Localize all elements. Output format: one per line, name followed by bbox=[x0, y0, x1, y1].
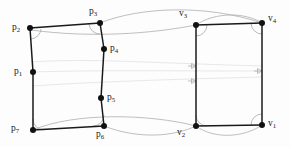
vertex-label-v2: v2 bbox=[177, 128, 185, 138]
guide-line-lower bbox=[32, 77, 262, 86]
left-polygon-edges bbox=[30, 23, 104, 130]
edge-v1-v2 bbox=[196, 125, 262, 126]
right-vertex-dots bbox=[193, 20, 265, 129]
vertex-label-v1: v1 bbox=[268, 119, 276, 129]
vertex-dot-p5[interactable] bbox=[98, 95, 104, 101]
edge-v3-v4 bbox=[196, 23, 262, 25]
vertex-dot-v2[interactable] bbox=[193, 123, 199, 129]
correspondence-curves-group bbox=[31, 10, 262, 135]
figure-root: p2 p3 p4 p5 p6 p7 p1 v3 v4 v1 v2 bbox=[0, 0, 290, 147]
vertex-dot-v3[interactable] bbox=[193, 22, 199, 28]
left-corner-arcs-group bbox=[31, 24, 104, 130]
guide-line-middle bbox=[33, 71, 262, 72]
vertex-label-p4: p4 bbox=[110, 44, 118, 54]
vertex-dot-p2[interactable] bbox=[27, 25, 33, 31]
vertex-label-p2: p2 bbox=[12, 23, 20, 33]
vertex-dot-p3[interactable] bbox=[97, 20, 103, 26]
vertex-label-p3: p3 bbox=[89, 7, 97, 17]
vertex-label-p5: p5 bbox=[107, 93, 115, 103]
edge-p3-p4-p5-p6 bbox=[100, 23, 104, 126]
vertex-label-p6: p6 bbox=[96, 130, 104, 140]
vertex-dot-p6[interactable] bbox=[101, 123, 107, 129]
diagram-canvas bbox=[0, 0, 290, 147]
edge-p7-p1-p2 bbox=[30, 28, 33, 130]
arrow-mid-icon bbox=[254, 69, 262, 74]
guide-line-upper bbox=[31, 61, 262, 66]
vertex-label-p7: p7 bbox=[11, 124, 19, 134]
right-rectangle-edges bbox=[196, 23, 262, 126]
right-corner-arcs-group bbox=[196, 23, 262, 126]
vertex-dot-v4[interactable] bbox=[259, 20, 265, 26]
edge-p6-p7 bbox=[33, 126, 104, 130]
vertex-dot-v1[interactable] bbox=[259, 122, 265, 128]
flow-arrows-group bbox=[188, 64, 262, 84]
vertex-label-p1: p1 bbox=[14, 67, 22, 77]
vertex-dot-p4[interactable] bbox=[101, 46, 107, 52]
vertex-label-v3: v3 bbox=[179, 9, 187, 19]
arrow-upper-icon bbox=[188, 64, 196, 69]
vertex-label-v4: v4 bbox=[268, 14, 276, 24]
vertex-dot-p1[interactable] bbox=[30, 69, 36, 75]
left-vertex-dots bbox=[27, 20, 107, 133]
vertex-dot-p7[interactable] bbox=[30, 127, 36, 133]
guide-lines-group bbox=[31, 61, 262, 86]
